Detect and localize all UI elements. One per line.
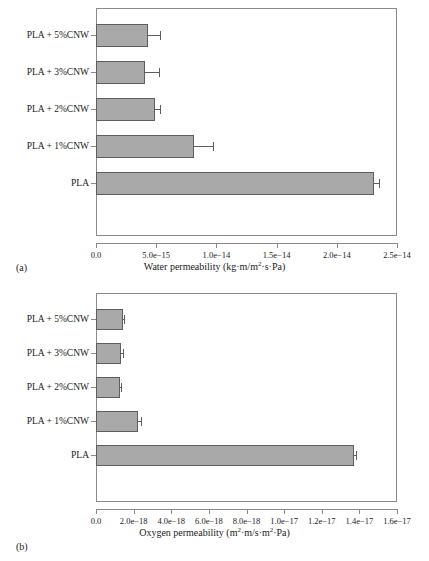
error-bar-cap bbox=[124, 315, 125, 324]
y-axis-category-label: PLA bbox=[0, 178, 89, 188]
x-axis-tick-label: 2.5e−14 bbox=[383, 250, 411, 260]
bar bbox=[96, 61, 145, 84]
bar bbox=[96, 24, 148, 47]
figure-container: PLAPLA + 1%CNWPLA + 2%CNWPLA + 3%CNWPLA … bbox=[0, 0, 429, 561]
bar bbox=[96, 343, 121, 364]
x-axis-tick bbox=[397, 243, 398, 248]
x-axis-label-b-mid: ·m/s·m bbox=[241, 527, 270, 538]
x-axis-tick bbox=[96, 243, 97, 248]
x-axis-tick bbox=[322, 509, 323, 514]
error-bar-line bbox=[145, 72, 159, 73]
error-bar-cap bbox=[121, 383, 122, 392]
bar-row bbox=[96, 24, 397, 47]
y-axis-category-label: PLA + 2%CNW bbox=[0, 382, 89, 392]
x-axis-label-b-suffix: ·Pa) bbox=[273, 527, 290, 538]
y-axis-category-label: PLA + 2%CNW bbox=[0, 104, 89, 114]
bar-row bbox=[96, 98, 397, 121]
x-axis-tick bbox=[284, 509, 285, 514]
x-axis-tick-label: 6.0e−18 bbox=[195, 516, 223, 526]
bar-row bbox=[96, 61, 397, 84]
error-bar-cap bbox=[141, 417, 142, 426]
x-axis-label-a: Water permeability (kg·m/m2·s·Pa) bbox=[0, 261, 429, 272]
panel-a-water-permeability: PLAPLA + 1%CNWPLA + 2%CNWPLA + 3%CNWPLA … bbox=[0, 0, 429, 285]
x-axis-tick-label: 1.4e−17 bbox=[346, 516, 374, 526]
error-bar-cap bbox=[159, 68, 160, 77]
bar bbox=[96, 377, 120, 398]
y-axis-category-label: PLA + 5%CNW bbox=[0, 314, 89, 324]
panel-label-a: (a) bbox=[16, 262, 27, 273]
x-axis-tick-label: 1.0e−14 bbox=[203, 250, 231, 260]
bar bbox=[96, 309, 123, 330]
x-axis-label-a-prefix: Water permeability (kg·m/m bbox=[144, 261, 258, 272]
error-bar-cap bbox=[356, 451, 357, 460]
y-axis-category-label: PLA + 1%CNW bbox=[0, 141, 89, 151]
error-bar-cap bbox=[213, 142, 214, 151]
x-axis-tick bbox=[359, 509, 360, 514]
x-axis-tick bbox=[134, 509, 135, 514]
error-bar-cap bbox=[160, 31, 161, 40]
bar bbox=[96, 98, 155, 121]
error-bar-cap bbox=[160, 105, 161, 114]
x-axis-label-a-suffix: ·s·Pa) bbox=[261, 261, 285, 272]
bar bbox=[96, 445, 354, 466]
bar-row bbox=[96, 411, 397, 432]
x-axis-tick bbox=[171, 509, 172, 514]
x-axis-tick-label: 1.6e−17 bbox=[383, 516, 411, 526]
x-axis-tick-label: 1.2e−17 bbox=[308, 516, 336, 526]
bar-row bbox=[96, 343, 397, 364]
x-axis-tick-label: 0.0 bbox=[91, 250, 102, 260]
x-axis-tick bbox=[397, 509, 398, 514]
bar-row bbox=[96, 309, 397, 330]
y-axis-category-label: PLA + 3%CNW bbox=[0, 67, 89, 77]
bar bbox=[96, 172, 374, 195]
bar-row bbox=[96, 172, 397, 195]
error-bar-cap bbox=[379, 179, 380, 188]
x-axis-tick bbox=[247, 509, 248, 514]
x-axis-tick-label: 2.0e−14 bbox=[323, 250, 351, 260]
bar bbox=[96, 135, 194, 158]
y-axis-category-label: PLA + 1%CNW bbox=[0, 416, 89, 426]
bar-row bbox=[96, 445, 397, 466]
bars-layer-b bbox=[96, 293, 397, 502]
bar-row bbox=[96, 135, 397, 158]
x-axis-tick-label: 5.0e−15 bbox=[142, 250, 170, 260]
x-axis-tick-label: 4.0e−18 bbox=[157, 516, 185, 526]
x-axis-tick bbox=[337, 243, 338, 248]
x-axis-tick bbox=[209, 509, 210, 514]
y-axis-category-label: PLA bbox=[0, 450, 89, 460]
x-axis-tick bbox=[96, 509, 97, 514]
bar-row bbox=[96, 377, 397, 398]
x-axis-label-b: Oxygen permeability (m2·m/s·m2·Pa) bbox=[0, 527, 429, 538]
y-axis-category-label: PLA + 5%CNW bbox=[0, 30, 89, 40]
y-axis-category-label: PLA + 3%CNW bbox=[0, 348, 89, 358]
x-axis-tick-label: 8.0e−18 bbox=[233, 516, 261, 526]
panel-label-b: (b) bbox=[16, 541, 28, 552]
x-axis-label-b-prefix: Oxygen permeability (m bbox=[139, 527, 237, 538]
panel-b-oxygen-permeability: PLAPLA + 1%CNWPLA + 2%CNWPLA + 3%CNWPLA … bbox=[0, 285, 429, 561]
bar bbox=[96, 411, 138, 432]
error-bar-line bbox=[148, 35, 160, 36]
x-axis-tick-label: 1.5e−14 bbox=[263, 250, 291, 260]
x-axis-tick bbox=[156, 243, 157, 248]
x-axis-tick bbox=[277, 243, 278, 248]
x-axis-tick-label: 0.0 bbox=[91, 516, 102, 526]
bars-layer-a bbox=[96, 8, 397, 236]
x-axis-tick-label: 1.0e−17 bbox=[270, 516, 298, 526]
x-axis-tick bbox=[216, 243, 217, 248]
x-axis-tick-label: 2.0e−18 bbox=[120, 516, 148, 526]
error-bar-cap bbox=[123, 349, 124, 358]
error-bar-line bbox=[194, 146, 214, 147]
